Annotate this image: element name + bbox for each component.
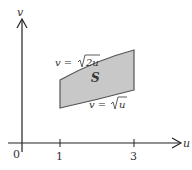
lower-curve-radicand: u <box>119 99 125 110</box>
tick-label-1: 1 <box>56 150 63 163</box>
v-axis-label: v <box>17 6 24 19</box>
region-label-s: S <box>91 71 100 85</box>
upper-curve-prefix: v = <box>55 57 75 68</box>
upper-curve-label: v = 2u <box>55 55 100 68</box>
lower-curve-label: v = u <box>89 97 127 110</box>
tick-label-3: 3 <box>130 150 137 163</box>
u-axis-label: u <box>183 137 190 150</box>
upper-curve-radicand: 2u <box>85 57 99 68</box>
uv-plane-diagram: v u 0 1 3 S v = 2u v = u <box>0 0 192 170</box>
lower-curve-prefix: v = <box>89 99 109 110</box>
origin-label: 0 <box>13 148 20 161</box>
